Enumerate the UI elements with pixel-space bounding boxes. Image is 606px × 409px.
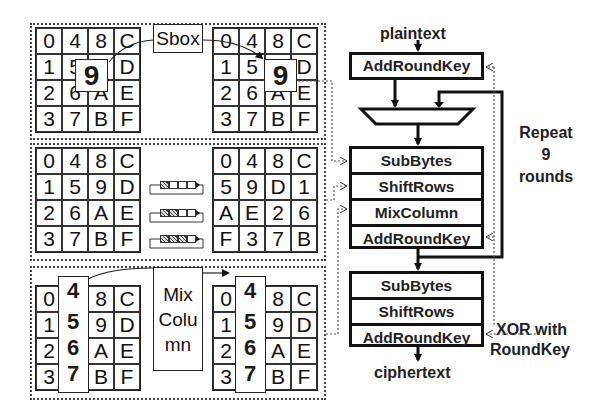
subbytes-link	[298, 81, 347, 161]
mux	[361, 109, 473, 124]
mixcolumn-arrow	[88, 268, 153, 279]
sbox-arrow	[109, 40, 153, 62]
mixcolumn-link	[326, 209, 347, 334]
shiftrows-link	[326, 186, 347, 200]
shift-wraps	[150, 185, 203, 248]
connectors	[0, 0, 606, 409]
